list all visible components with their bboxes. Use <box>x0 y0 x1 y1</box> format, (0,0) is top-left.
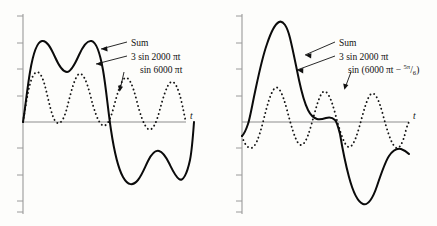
y-axis-ticks <box>236 16 242 212</box>
leader-arrow-fundamental <box>96 61 103 66</box>
axes-right <box>236 14 409 214</box>
sum-curve-solid <box>23 41 194 184</box>
x-axis-label: t <box>190 111 193 121</box>
y-axis-ticks <box>17 16 23 212</box>
annotations-left: Sum 3 sin 2000 πt sin 6000 πt t <box>96 38 193 121</box>
label-harmonic: sin 6000 πt <box>140 65 183 75</box>
fourier-synthesis-figure: Sum 3 sin 2000 πt sin 6000 πt t <box>0 0 437 226</box>
label-harmonic-suffix: ) <box>416 65 419 76</box>
label-sum: Sum <box>339 38 357 48</box>
leader-arrow-harmonic <box>343 83 348 89</box>
label-fundamental: 3 sin 2000 πt <box>339 52 389 62</box>
sum-curve-solid <box>242 22 409 205</box>
chart-panel-right: Sum 3 sin 2000 πt sin (6000 πt − 5π/6) t <box>219 0 437 226</box>
label-sum: Sum <box>131 38 149 48</box>
axes-left <box>17 14 186 214</box>
label-harmonic-prefix: sin (6000 πt − <box>348 65 404 76</box>
leader-line-fundamental <box>297 56 335 70</box>
x-axis-label: t <box>413 111 416 121</box>
label-fundamental: 3 sin 2000 πt <box>131 52 181 62</box>
chart-svg-right: Sum 3 sin 2000 πt sin (6000 πt − 5π/6) t <box>219 0 437 226</box>
annotations-right: Sum 3 sin 2000 πt sin (6000 πt − 5π/6) t <box>297 38 419 121</box>
leader-line-sum <box>305 42 335 55</box>
leader-arrow-sum <box>101 46 108 51</box>
label-harmonic: sin (6000 πt − 5π/6) <box>348 63 419 76</box>
chart-svg-left: Sum 3 sin 2000 πt sin 6000 πt t <box>0 0 218 226</box>
chart-panel-left: Sum 3 sin 2000 πt sin 6000 πt t <box>0 0 218 226</box>
